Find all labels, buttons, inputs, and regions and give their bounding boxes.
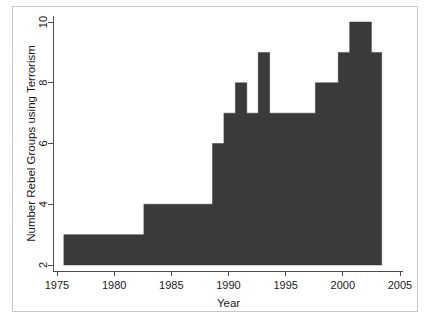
x-axis-title: Year bbox=[217, 297, 240, 309]
x-tick-label: 1980 bbox=[102, 279, 126, 291]
x-tick-label: 1985 bbox=[159, 279, 183, 291]
chart-plot-area: 1975198019851990199520002005246810YearNu… bbox=[0, 0, 431, 325]
step-area-series bbox=[64, 22, 382, 265]
y-tick-label: 8 bbox=[37, 80, 49, 86]
y-axis-title: Number Rebel Groups using Terrorism bbox=[25, 45, 37, 242]
x-tick-label: 2005 bbox=[388, 279, 412, 291]
y-tick-label: 2 bbox=[37, 262, 49, 268]
y-tick-label: 6 bbox=[37, 140, 49, 146]
chart-figure: 1975198019851990199520002005246810YearNu… bbox=[0, 0, 431, 325]
x-tick-label: 1975 bbox=[45, 279, 69, 291]
x-tick-label: 1990 bbox=[216, 279, 240, 291]
x-tick-label: 2000 bbox=[331, 279, 355, 291]
x-tick-label: 1995 bbox=[273, 279, 297, 291]
y-tick-label: 4 bbox=[37, 201, 49, 207]
y-tick-label: 10 bbox=[37, 16, 49, 28]
